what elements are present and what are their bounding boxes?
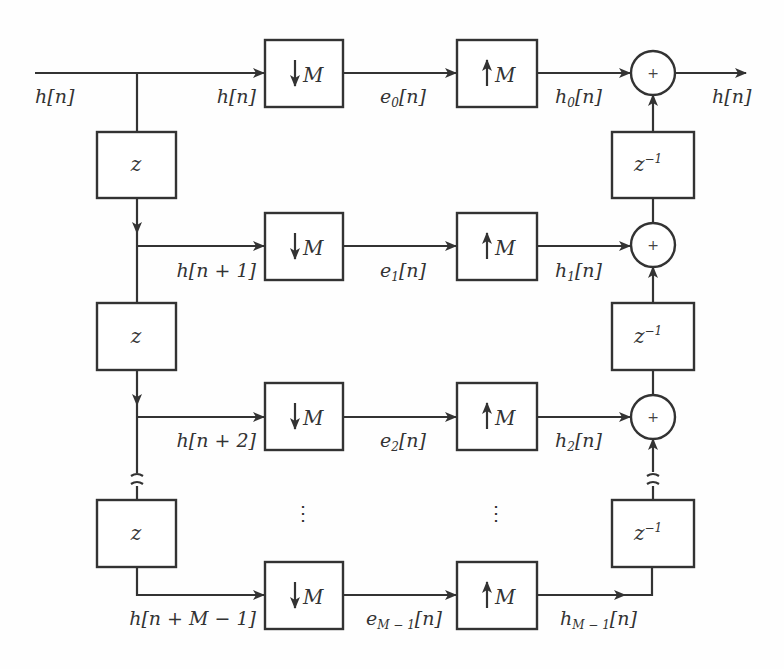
downsampler-row-1: M [265,213,343,280]
ellipsis-down: ⋮ [293,501,313,525]
break-icon-right [647,474,659,484]
upsampler-row-3: M [457,562,537,629]
svg-text:M: M [302,236,324,260]
up-1-label: h1[n] [555,259,603,284]
branch-3-input-label: h[n + M − 1] [129,607,256,629]
up-line-3-turn [622,567,652,595]
poly-3-label: eM − 1[n] [366,607,443,632]
upsampler-row-2: M [457,383,537,450]
plus-icon: + [647,409,659,425]
ellipsis-up: ⋮ [486,501,506,525]
advance-block-1-label: z [130,152,142,176]
svg-text:M: M [494,63,516,87]
svg-text:M: M [494,406,516,430]
up-3-label: hM − 1[n] [560,607,638,632]
branch-0-input-label: h[n] [217,85,257,107]
downsampler-row-2: M [265,383,343,450]
up-2-label: h2[n] [555,429,603,454]
poly-2-label: e2[n] [380,429,427,454]
downsampler-row-3: M [265,562,343,629]
branch-2-input-label: h[n + 2] [177,429,257,451]
upsampler-row-0: M [457,40,537,107]
input-label: h[n] [35,85,75,107]
advance-block-3-label: z [130,521,142,545]
svg-text:M: M [302,585,324,609]
svg-text:M: M [302,406,324,430]
svg-text:M: M [494,236,516,260]
break-icon-left [131,474,143,484]
advance-block-2-label: z [130,324,142,348]
diagram-canvas: h[n] z z z M M M M h[n] h[n + 1] h[n + 2… [0,0,784,669]
downsampler-row-0: M [265,40,343,107]
svg-text:M: M [494,585,516,609]
output-label: h[n] [712,85,752,107]
poly-1-label: e1[n] [380,259,427,284]
branch-3-line [137,567,264,595]
plus-icon: + [647,65,659,81]
polyphase-diagram: h[n] z z z M M M M h[n] h[n + 1] h[n + 2… [0,0,784,669]
plus-icon: + [647,237,659,253]
upsampler-row-1: M [457,213,537,280]
up-0-label: h0[n] [555,85,603,110]
poly-0-label: e0[n] [380,85,427,110]
branch-1-input-label: h[n + 1] [177,259,257,281]
svg-text:M: M [302,63,324,87]
